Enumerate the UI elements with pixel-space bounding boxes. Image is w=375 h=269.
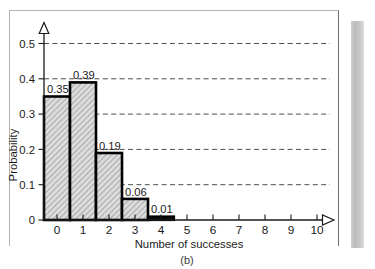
x-tick-label-10: 10 <box>310 223 324 237</box>
x-axis-title: Number of successes <box>135 238 244 250</box>
y-tick-label-1: 0.1 <box>19 179 35 191</box>
x-tick-label-9: 9 <box>288 223 295 237</box>
bar-2 <box>96 153 122 220</box>
data-label-bar-1: 0.39 <box>73 69 95 81</box>
data-label-bar-0: 0.35 <box>47 83 69 95</box>
x-tick-label-5: 5 <box>184 223 191 237</box>
y-tick-label-0: 0 <box>29 214 35 226</box>
y-tick-label-5: 0.5 <box>19 38 35 50</box>
x-tick-label-8: 8 <box>262 223 269 237</box>
x-tick-label-3: 3 <box>132 223 139 237</box>
y-axis: 0 0.1 0.2 0.3 0.4 0.5 Probability <box>7 23 49 227</box>
x-tick-label-7: 7 <box>236 223 243 237</box>
x-tick-label-2: 2 <box>106 223 113 237</box>
y-tick-label-2: 0.2 <box>19 144 35 156</box>
x-tick-label-4: 4 <box>158 223 165 237</box>
y-tick-label-4: 0.4 <box>19 73 35 85</box>
bar-1 <box>70 82 96 220</box>
x-axis: 0 1 2 3 4 5 6 7 8 9 10 Number of success… <box>44 215 334 251</box>
y-tick-label-3: 0.3 <box>19 108 35 120</box>
data-label-bar-3: 0.06 <box>125 186 147 198</box>
x-tick-label-0: 0 <box>54 223 61 237</box>
x-tick-label-1: 1 <box>80 223 87 237</box>
x-axis-arrowhead <box>323 215 335 225</box>
figure-caption: (b) <box>180 254 193 266</box>
y-axis-arrowhead <box>39 23 49 34</box>
bar-0 <box>44 97 70 221</box>
probability-histogram-chart: 0.35 0.39 0.19 0.06 0.01 0 0.1 0.2 0.3 0… <box>0 0 375 269</box>
y-axis-title: Probability <box>7 128 19 181</box>
x-tick-label-6: 6 <box>210 223 217 237</box>
data-label-bar-2: 0.19 <box>99 140 121 152</box>
data-label-bar-4: 0.01 <box>151 203 173 215</box>
